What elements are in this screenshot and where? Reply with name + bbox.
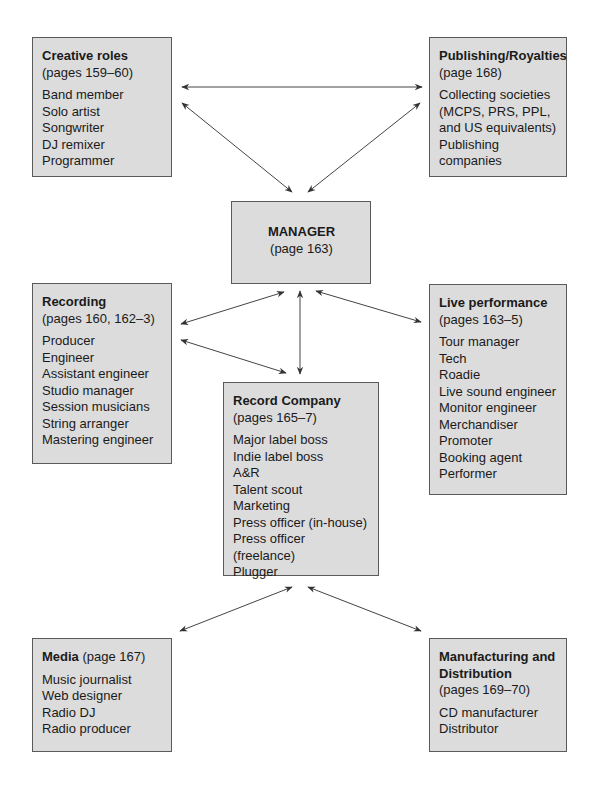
node-pages: (pages 159–60) — [42, 65, 163, 82]
list-item: Indie label boss — [233, 449, 370, 466]
list-item: Plugger — [233, 564, 370, 581]
list-item: Press officer (freelance) — [233, 531, 370, 564]
list-item: Assistant engineer — [42, 366, 163, 383]
list-item: Monitor engineer — [439, 400, 558, 417]
list-item: Talent scout — [233, 482, 370, 499]
list-item: Distributor — [439, 721, 558, 738]
node-pages: (pages 165–7) — [233, 410, 370, 427]
node-recording: Recording (pages 160, 162–3) Producer En… — [32, 283, 172, 464]
node-title-line1: Manufacturing and — [439, 649, 558, 666]
list-item: Collecting societies — [439, 87, 558, 104]
node-title: Record Company — [233, 393, 370, 410]
node-pages: (page 163) — [241, 241, 362, 258]
list-item: Live sound engineer — [439, 384, 558, 401]
arrow-manager-recording — [181, 292, 284, 324]
list-item: Booking agent — [439, 450, 558, 467]
node-record-company: Record Company (pages 165–7) Major label… — [223, 382, 379, 576]
node-title: Media — [42, 649, 79, 664]
node-manager: MANAGER (page 163) — [231, 201, 371, 284]
node-media: Media (page 167) Music journalist Web de… — [32, 638, 172, 752]
list-item: Engineer — [42, 350, 163, 367]
list-item: Marketing — [233, 498, 370, 515]
node-pages: (pages 163–5) — [439, 312, 558, 329]
node-pages: (pages 160, 162–3) — [42, 311, 163, 328]
list-item: Promoter — [439, 433, 558, 450]
arrow-record-company-manufacturing — [308, 587, 421, 631]
arrow-publishing-manager — [308, 103, 420, 192]
list-item: Producer — [42, 333, 163, 350]
arrow-record-company-media — [180, 587, 292, 631]
node-creative-roles: Creative roles (pages 159–60) Band membe… — [32, 37, 172, 177]
node-title: Creative roles — [42, 48, 163, 65]
node-publishing-royalties: Publishing/Royalties (page 168) Collecti… — [429, 37, 567, 177]
list-item: Music journalist — [42, 672, 163, 689]
list-item: Press officer (in-house) — [233, 515, 370, 532]
node-title: Publishing/Royalties — [439, 48, 558, 65]
arrow-creative-manager — [182, 103, 292, 192]
list-item: Session musicians — [42, 399, 163, 416]
arrow-recording-record-company — [181, 340, 286, 373]
node-pages: (page 167) — [82, 649, 145, 664]
list-item: Mastering engineer — [42, 432, 163, 449]
list-item: Programmer — [42, 153, 163, 170]
node-pages: (page 168) — [439, 65, 558, 82]
list-item: Tech — [439, 351, 558, 368]
list-item: Roadie — [439, 367, 558, 384]
list-item: A&R — [233, 465, 370, 482]
node-title: MANAGER — [241, 224, 362, 241]
node-pages: (pages 169–70) — [439, 682, 558, 699]
node-title: Live performance — [439, 295, 558, 312]
list-item: Band member — [42, 87, 163, 104]
list-item: Radio producer — [42, 721, 163, 738]
list-item: Studio manager — [42, 383, 163, 400]
list-item: Songwriter — [42, 120, 163, 137]
list-item: Performer — [439, 466, 558, 483]
list-item: (MCPS, PRS, PPL, — [439, 104, 558, 121]
list-item: Radio DJ — [42, 705, 163, 722]
list-item: String arranger — [42, 416, 163, 433]
arrow-manager-live — [316, 291, 421, 322]
list-item: Major label boss — [233, 432, 370, 449]
node-title: Recording — [42, 294, 163, 311]
list-item: DJ remixer — [42, 137, 163, 154]
node-title-line2: Distribution — [439, 666, 558, 683]
list-item: and US equivalents) — [439, 120, 558, 137]
list-item: CD manufacturer — [439, 705, 558, 722]
list-item: Solo artist — [42, 104, 163, 121]
node-manufacturing-distribution: Manufacturing and Distribution (pages 16… — [429, 638, 567, 752]
list-item: Tour manager — [439, 334, 558, 351]
node-live-performance: Live performance (pages 163–5) Tour mana… — [429, 284, 567, 495]
node-heading: Media (page 167) — [42, 649, 163, 666]
list-item: Web designer — [42, 688, 163, 705]
list-item: Publishing companies — [439, 137, 558, 170]
list-item: Merchandiser — [439, 417, 558, 434]
